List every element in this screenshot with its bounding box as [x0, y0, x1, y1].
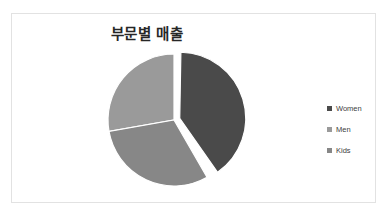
pie-chart-area — [12, 14, 377, 202]
chart-legend: WomenMenKids — [327, 100, 377, 163]
legend-swatch-icon — [327, 106, 332, 111]
legend-swatch-icon — [327, 127, 332, 132]
legend-item-label: Kids — [336, 147, 351, 155]
legend-item-label: Women — [336, 105, 362, 113]
pie-slice-men[interactable] — [108, 54, 174, 131]
legend-item[interactable]: Women — [327, 100, 377, 117]
legend-item[interactable]: Kids — [327, 142, 377, 159]
legend-swatch-icon — [327, 148, 332, 153]
legend-item[interactable]: Men — [327, 121, 377, 138]
pie-chart-svg — [90, 44, 260, 194]
pie-slice-group — [108, 52, 246, 186]
legend-item-label: Men — [336, 126, 351, 134]
chart-frame: 부문별 매출 WomenMenKids — [11, 13, 376, 203]
